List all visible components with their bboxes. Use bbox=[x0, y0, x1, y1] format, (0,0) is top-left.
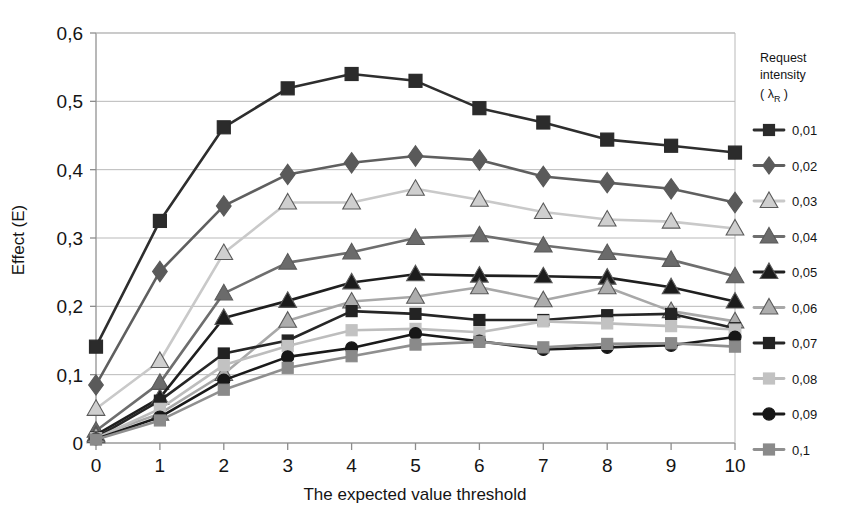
legend-item-label: 0,02 bbox=[792, 159, 817, 174]
chart-container: 00,10,20,30,40,50,6 012345678910 Request… bbox=[0, 0, 850, 523]
data-point-marker bbox=[345, 68, 358, 81]
data-point-marker bbox=[280, 164, 295, 184]
data-point-marker bbox=[728, 192, 743, 212]
data-point-marker bbox=[281, 82, 294, 95]
data-point-marker bbox=[282, 340, 293, 351]
y-tick-label: 0,5 bbox=[57, 91, 83, 112]
y-tick-label: 0,4 bbox=[57, 160, 84, 181]
y-tick-label: 0,2 bbox=[57, 296, 83, 317]
data-point-marker bbox=[666, 308, 677, 319]
data-point-marker bbox=[151, 352, 169, 368]
data-point-marker bbox=[407, 265, 425, 281]
legend-marker bbox=[764, 444, 775, 455]
data-point-marker bbox=[409, 328, 421, 340]
legend-title-line2: intensity bbox=[760, 68, 807, 82]
data-point-marker bbox=[602, 318, 613, 329]
x-tick-label: 4 bbox=[346, 455, 357, 476]
data-point-marker bbox=[218, 384, 229, 395]
chart-legend: Requestintensity( λR )0,010,020,030,040,… bbox=[754, 51, 817, 458]
legend-item[interactable]: 0,01 bbox=[754, 123, 817, 138]
data-point-marker bbox=[410, 339, 421, 350]
data-point-marker bbox=[215, 244, 233, 260]
legend-item-label: 0,1 bbox=[792, 443, 810, 458]
data-point-marker bbox=[408, 146, 423, 166]
data-point-marker bbox=[730, 341, 741, 352]
legend-item[interactable]: 0,06 bbox=[754, 298, 817, 315]
y-tick-label: 0,1 bbox=[57, 365, 83, 386]
y-tick-label: 0,3 bbox=[57, 228, 83, 249]
legend-item[interactable]: 0,09 bbox=[754, 407, 817, 422]
data-point-marker bbox=[473, 102, 486, 115]
x-tick-label: 7 bbox=[538, 455, 549, 476]
data-point-marker bbox=[538, 342, 549, 353]
legend-item[interactable]: 0,1 bbox=[754, 443, 810, 458]
legend-item[interactable]: 0,05 bbox=[754, 263, 817, 280]
data-series-group bbox=[87, 68, 744, 446]
data-point-marker bbox=[409, 74, 422, 87]
data-point-marker bbox=[474, 315, 485, 326]
legend-marker bbox=[763, 408, 775, 420]
legend-item-label: 0,06 bbox=[792, 301, 817, 316]
legend-marker bbox=[764, 125, 775, 136]
data-point-marker bbox=[666, 321, 677, 332]
data-point-marker bbox=[282, 362, 293, 373]
data-point-marker bbox=[602, 338, 613, 349]
x-tick-label: 2 bbox=[219, 455, 230, 476]
legend-item[interactable]: 0,02 bbox=[754, 157, 817, 174]
y-tick-label: 0,6 bbox=[57, 23, 83, 44]
legend-title-symbol: ( λR ) bbox=[760, 87, 788, 104]
data-point-marker bbox=[538, 316, 549, 327]
data-point-marker bbox=[87, 400, 105, 416]
y-axis-title: Effect (E) bbox=[9, 205, 28, 276]
x-tick-label: 3 bbox=[282, 455, 293, 476]
data-point-marker bbox=[215, 284, 233, 300]
x-tick-label: 5 bbox=[410, 455, 421, 476]
legend-item-label: 0,07 bbox=[792, 336, 817, 351]
y-axis-tick-labels: 00,10,20,30,40,50,6 bbox=[57, 23, 84, 454]
data-point-marker bbox=[90, 340, 103, 353]
data-point-marker bbox=[346, 351, 357, 362]
x-tick-label: 8 bbox=[602, 455, 613, 476]
data-point-marker bbox=[664, 179, 679, 199]
data-point-marker bbox=[665, 139, 678, 152]
data-point-marker bbox=[729, 146, 742, 159]
legend-item-label: 0,08 bbox=[792, 372, 817, 387]
data-point-marker bbox=[471, 226, 489, 242]
data-point-marker bbox=[472, 150, 487, 170]
data-point-marker bbox=[600, 173, 615, 193]
legend-item[interactable]: 0,03 bbox=[754, 192, 817, 209]
legend-marker bbox=[764, 373, 775, 384]
data-point-marker bbox=[153, 214, 166, 227]
legend-item[interactable]: 0,08 bbox=[754, 372, 817, 387]
legend-item[interactable]: 0,04 bbox=[754, 227, 817, 244]
x-tick-label: 1 bbox=[155, 455, 166, 476]
x-tick-label: 10 bbox=[724, 455, 745, 476]
legend-item[interactable]: 0,07 bbox=[754, 336, 817, 351]
data-series bbox=[87, 278, 744, 442]
data-point-marker bbox=[218, 348, 229, 359]
data-point-marker bbox=[410, 308, 421, 319]
x-axis-tick-labels: 012345678910 bbox=[91, 455, 746, 476]
legend-item-label: 0,05 bbox=[792, 265, 817, 280]
data-point-marker bbox=[474, 336, 485, 347]
x-tick-label: 6 bbox=[474, 455, 485, 476]
data-point-marker bbox=[346, 325, 357, 336]
legend-item-label: 0,09 bbox=[792, 407, 817, 422]
data-point-marker bbox=[601, 133, 614, 146]
data-point-marker bbox=[91, 434, 102, 445]
legend-marker bbox=[764, 338, 775, 349]
x-tick-label: 0 bbox=[91, 455, 102, 476]
y-tick-label: 0 bbox=[72, 433, 83, 454]
data-point-marker bbox=[537, 116, 550, 129]
legend-item-label: 0,04 bbox=[792, 230, 817, 245]
legend-item-label: 0,01 bbox=[792, 123, 817, 138]
line-chart: 00,10,20,30,40,50,6 012345678910 Request… bbox=[0, 0, 850, 523]
data-point-marker bbox=[407, 180, 425, 196]
data-point-marker bbox=[218, 360, 229, 371]
data-point-marker bbox=[666, 338, 677, 349]
legend-title-line1: Request bbox=[760, 51, 807, 65]
data-point-marker bbox=[154, 415, 165, 426]
legend-item-label: 0,03 bbox=[792, 194, 817, 209]
x-tick-label: 9 bbox=[666, 455, 677, 476]
legend-marker bbox=[763, 157, 775, 174]
